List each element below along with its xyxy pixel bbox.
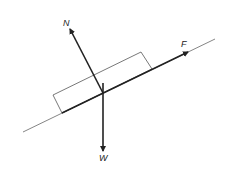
force-f-arrow	[62, 52, 188, 113]
force-w-label: W	[99, 154, 108, 163]
diagram-canvas	[0, 0, 230, 170]
force-n-label: N	[63, 19, 70, 28]
force-n-arrow	[70, 29, 103, 93]
force-f-label: F	[181, 40, 187, 49]
